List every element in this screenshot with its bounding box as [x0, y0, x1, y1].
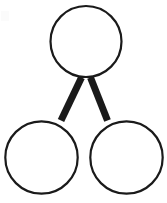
edge-top-to-bottom-right: [91, 78, 108, 121]
graph-diagram: [0, 0, 167, 203]
node-bottom-right: [90, 121, 162, 193]
edge-group: [61, 78, 108, 121]
node-top: [51, 6, 122, 77]
node-bottom-left: [5, 121, 77, 193]
diagram-canvas: [0, 0, 167, 203]
node-group: [5, 6, 162, 194]
edge-top-to-bottom-left: [61, 78, 82, 121]
